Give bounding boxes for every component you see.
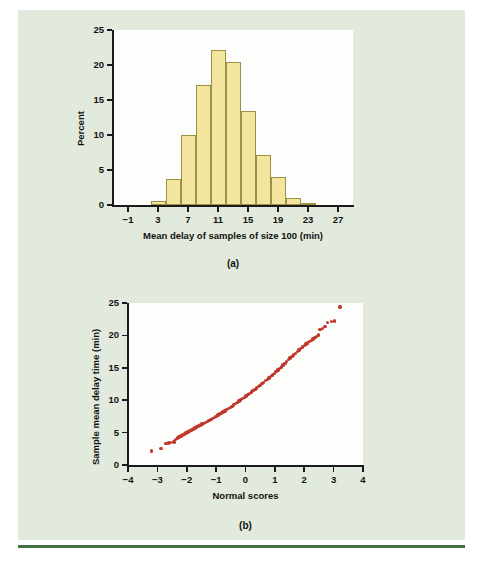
qqplot-x-tick-label: 2 bbox=[289, 474, 319, 485]
histogram-bar bbox=[226, 62, 241, 206]
histogram-y-tick-label: 5 bbox=[73, 164, 104, 175]
histogram-x-tick bbox=[277, 207, 279, 212]
qqplot-x-tick-label: −2 bbox=[172, 474, 202, 485]
histogram-x-tick bbox=[157, 207, 159, 212]
histogram-y-tick-label: 25 bbox=[73, 24, 104, 35]
histogram-x-axis-title: Mean delay of samples of size 100 (min) bbox=[113, 230, 353, 241]
qqplot-x-tick bbox=[245, 467, 247, 472]
qqplot-x-tick bbox=[157, 467, 159, 472]
qqplot-y-tick bbox=[122, 464, 127, 466]
histogram-bar bbox=[166, 179, 181, 205]
panel-a-caption: (a) bbox=[113, 258, 353, 269]
qqplot-y-tick bbox=[122, 367, 127, 369]
histogram-y-axis-title: Percent bbox=[75, 111, 86, 146]
panel-b-caption: (b) bbox=[128, 520, 363, 531]
qqplot-data-point bbox=[333, 319, 336, 322]
histogram-y-axis bbox=[112, 30, 114, 205]
histogram-x-tick-label: 7 bbox=[173, 214, 203, 225]
qqplot-y-tick bbox=[122, 302, 127, 304]
histogram-x-tick bbox=[307, 207, 309, 212]
histogram-panel-a: 0510152025−1371115192327 Mean delay of s… bbox=[18, 18, 465, 280]
qqplot-x-tick-label: −1 bbox=[201, 474, 231, 485]
histogram-y-tick-label: 20 bbox=[73, 59, 104, 70]
bottom-divider-rule bbox=[18, 545, 465, 548]
histogram-x-tick bbox=[247, 207, 249, 212]
histogram-x-tick-label: 27 bbox=[323, 214, 353, 225]
histogram-bar bbox=[241, 111, 256, 206]
qqplot-data-point bbox=[150, 449, 153, 452]
qqplot-data-point bbox=[159, 447, 162, 450]
figure-panel: 0510152025−1371115192327 Mean delay of s… bbox=[18, 10, 465, 540]
qqplot-y-axis bbox=[127, 303, 129, 465]
histogram-x-tick bbox=[217, 207, 219, 212]
qqplot-x-tick-label: 3 bbox=[319, 474, 349, 485]
qqplot-plot-area bbox=[128, 303, 363, 465]
qqplot-x-tick-label: 1 bbox=[260, 474, 290, 485]
histogram-x-tick-label: 15 bbox=[233, 214, 263, 225]
qqplot-x-tick bbox=[333, 467, 335, 472]
histogram-x-tick bbox=[127, 207, 129, 212]
qqplot-x-tick bbox=[186, 467, 188, 472]
histogram-x-axis bbox=[112, 205, 354, 207]
histogram-y-tick bbox=[107, 99, 112, 101]
qqplot-x-tick-label: −4 bbox=[113, 474, 143, 485]
qqplot-y-tick bbox=[122, 399, 127, 401]
histogram-bar bbox=[286, 198, 301, 205]
histogram-bar bbox=[271, 177, 286, 205]
histogram-bar bbox=[256, 155, 271, 205]
histogram-bar bbox=[196, 85, 211, 205]
qqplot-x-tick bbox=[303, 467, 305, 472]
histogram-x-tick-label: 19 bbox=[263, 214, 293, 225]
qqplot-panel-b: 0510152025−4−3−2−101234 Normal scores Sa… bbox=[18, 293, 465, 540]
histogram-x-tick-label: 11 bbox=[203, 214, 233, 225]
histogram-x-tick-label: 3 bbox=[143, 214, 173, 225]
histogram-y-tick bbox=[107, 204, 112, 206]
histogram-y-tick bbox=[107, 169, 112, 171]
histogram-bar bbox=[181, 135, 196, 205]
histogram-y-tick bbox=[107, 64, 112, 66]
qqplot-x-tick bbox=[215, 467, 217, 472]
qqplot-y-tick bbox=[122, 335, 127, 337]
histogram-y-tick bbox=[107, 134, 112, 136]
qqplot-x-axis-title: Normal scores bbox=[128, 490, 363, 501]
qqplot-x-tick-label: 4 bbox=[348, 474, 378, 485]
qqplot-data-point bbox=[317, 333, 320, 336]
qqplot-data-point bbox=[338, 305, 341, 308]
qqplot-y-tick-label: 25 bbox=[88, 297, 119, 308]
histogram-bar bbox=[301, 203, 316, 205]
histogram-y-tick bbox=[107, 29, 112, 31]
histogram-x-tick bbox=[187, 207, 189, 212]
qqplot-y-tick bbox=[122, 432, 127, 434]
histogram-x-tick-label: −1 bbox=[113, 214, 143, 225]
histogram-x-tick bbox=[337, 207, 339, 212]
qqplot-x-tick bbox=[127, 467, 129, 472]
histogram-x-tick-label: 23 bbox=[293, 214, 323, 225]
qqplot-x-tick-label: −3 bbox=[142, 474, 172, 485]
qqplot-x-tick-label: 0 bbox=[231, 474, 261, 485]
histogram-y-tick-label: 15 bbox=[73, 94, 104, 105]
qqplot-x-tick bbox=[362, 467, 364, 472]
histogram-y-tick-label: 0 bbox=[73, 199, 104, 210]
histogram-bar bbox=[211, 50, 226, 205]
qqplot-data-point bbox=[323, 325, 326, 328]
qqplot-x-tick bbox=[274, 467, 276, 472]
histogram-bar bbox=[151, 201, 166, 205]
qqplot-y-axis-title: Sample mean delay time (min) bbox=[90, 329, 101, 465]
